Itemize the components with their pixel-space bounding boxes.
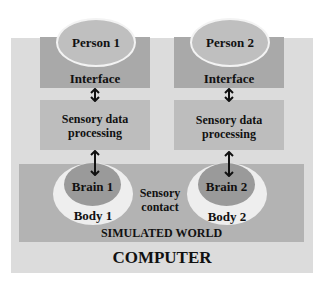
interface-label-2: Interface bbox=[174, 71, 284, 86]
sensory-contact-line2: contact bbox=[130, 200, 190, 214]
sensory-processing-label-2: Sensory data processing bbox=[174, 113, 284, 141]
double-arrow-icon bbox=[88, 150, 102, 176]
brain-1-label: Brain 1 bbox=[64, 179, 121, 194]
simulated-world-label: SIMULATED WORLD bbox=[19, 226, 304, 240]
sensory-processing-line1: Sensory data bbox=[174, 113, 284, 127]
double-arrow-icon bbox=[88, 88, 102, 102]
person-1-label: Person 1 bbox=[56, 35, 136, 50]
sensory-contact-label: Sensory contact bbox=[130, 186, 190, 214]
sensory-processing-label-1: Sensory data processing bbox=[40, 112, 150, 140]
double-arrow-icon bbox=[222, 88, 236, 102]
sensory-processing-line1: Sensory data bbox=[40, 112, 150, 126]
double-arrow-icon bbox=[222, 151, 236, 177]
interface-label-1: Interface bbox=[40, 71, 150, 86]
sensory-processing-line2: processing bbox=[174, 127, 284, 141]
body-2-label: Body 2 bbox=[187, 209, 267, 224]
computer-label: COMPUTER bbox=[11, 248, 313, 268]
body-1-label: Body 1 bbox=[53, 208, 133, 223]
sensory-processing-line2: processing bbox=[40, 126, 150, 140]
person-2-label: Person 2 bbox=[190, 35, 270, 50]
sensory-contact-line1: Sensory bbox=[130, 186, 190, 200]
brain-2-label: Brain 2 bbox=[198, 179, 255, 194]
